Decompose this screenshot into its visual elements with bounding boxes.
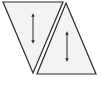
triangles-diagram — [0, 0, 101, 89]
